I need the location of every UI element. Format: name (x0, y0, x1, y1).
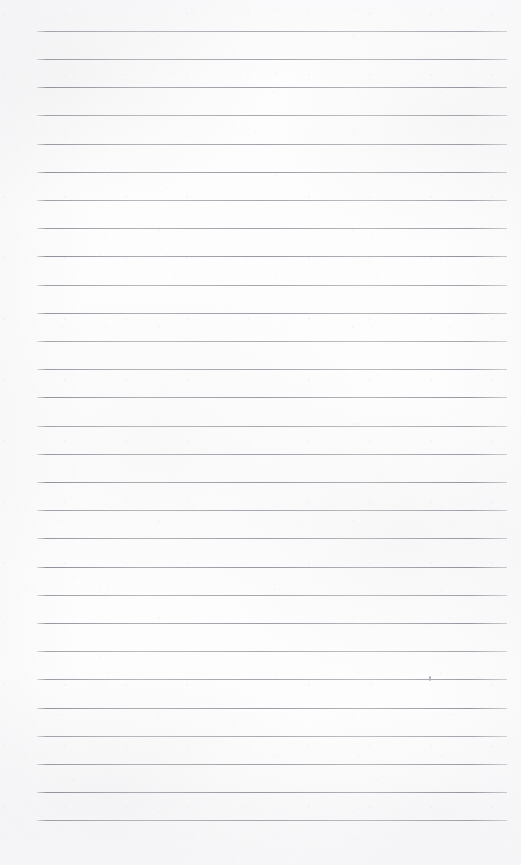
rule-line (37, 228, 507, 229)
rule-line (37, 87, 507, 88)
scanned-page (0, 0, 521, 865)
rule-line (37, 369, 507, 370)
faint-pencil-dot (429, 676, 431, 681)
rule-line (37, 820, 507, 821)
rule-line (37, 454, 507, 455)
rule-line (37, 510, 507, 511)
rule-line (37, 736, 507, 737)
rule-line (37, 115, 507, 116)
rule-line (37, 172, 507, 173)
rule-line (37, 256, 507, 257)
rule-line (37, 708, 507, 709)
rule-line (37, 623, 507, 624)
rule-line (37, 144, 507, 145)
rule-line (37, 651, 507, 652)
rule-line (37, 679, 507, 680)
rule-line (37, 31, 507, 32)
rule-line (37, 538, 507, 539)
rule-line (37, 482, 507, 483)
rule-line (37, 341, 507, 342)
rule-line (37, 426, 507, 427)
rule-line (37, 200, 507, 201)
rule-line (37, 397, 507, 398)
rule-line (37, 567, 507, 568)
rule-line (37, 285, 507, 286)
rule-line (37, 59, 507, 60)
rule-line (37, 313, 507, 314)
rule-line (37, 764, 507, 765)
rule-line (37, 595, 507, 596)
rule-line (37, 792, 507, 793)
